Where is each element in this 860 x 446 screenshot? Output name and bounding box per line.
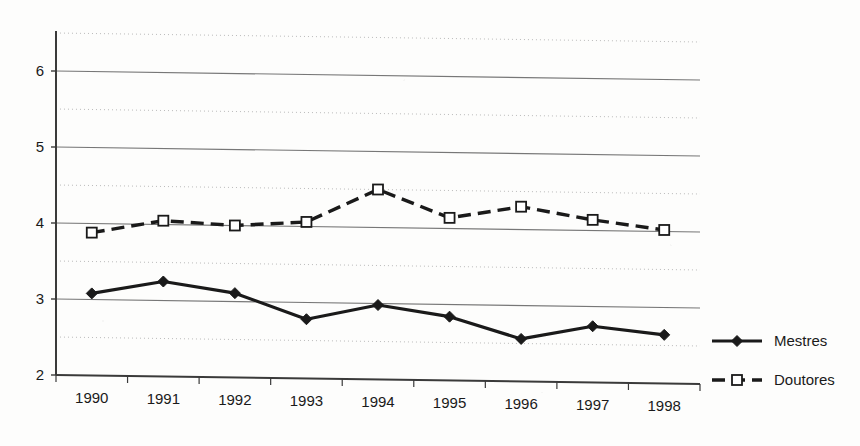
x-axis-tick-label: 1990 <box>75 389 108 406</box>
data-point-marker <box>230 221 240 231</box>
y-axis-tick-labels: 23456 <box>36 62 44 383</box>
y-axis-tick-label: 2 <box>36 366 44 383</box>
data-point-marker <box>445 213 455 223</box>
data-point-marker <box>588 215 598 225</box>
line-chart: 23456 1990199119921993199419951996199719… <box>0 0 860 446</box>
data-point-marker <box>373 300 384 311</box>
series-line-doutores <box>92 190 664 233</box>
x-axis-line <box>56 375 700 384</box>
legend-entry-doutores: Doutores <box>712 371 835 388</box>
chart-legend: MestresDoutores <box>712 332 835 388</box>
data-point-marker <box>732 375 742 385</box>
x-axis-tick-label: 1998 <box>648 397 681 414</box>
data-point-marker <box>301 217 311 227</box>
data-point-marker <box>301 314 312 325</box>
x-axis-tick-label: 1996 <box>504 395 537 412</box>
x-axis-tick-labels: 199019911992199319941995199619971998 <box>75 389 681 414</box>
minor-gridline <box>56 337 700 346</box>
y-axis-tick-label: 5 <box>36 138 44 155</box>
x-axis-tick-label: 1995 <box>433 394 466 411</box>
data-point-marker <box>444 311 455 322</box>
data-point-marker <box>732 336 743 347</box>
x-axis-tick-label: 1992 <box>218 391 251 408</box>
y-axis-tick-label: 4 <box>36 214 44 231</box>
major-gridline <box>56 223 700 232</box>
x-axis-tick-label: 1991 <box>147 390 180 407</box>
x-axis-tick-label: 1994 <box>361 393 394 410</box>
minor-gridline <box>56 33 700 42</box>
y-axis-tick-label: 6 <box>36 62 44 79</box>
data-point-marker <box>516 202 526 212</box>
data-point-marker <box>229 288 240 299</box>
legend-entry-mestres: Mestres <box>712 332 827 349</box>
data-point-marker <box>86 288 97 299</box>
major-gridline <box>56 147 700 156</box>
data-point-marker <box>158 276 169 287</box>
chart-container: 23456 1990199119921993199419951996199719… <box>0 0 860 446</box>
major-gridline <box>56 71 700 80</box>
data-series-layer <box>86 185 669 345</box>
x-axis-tick-label: 1997 <box>576 396 609 413</box>
series-markers-mestres <box>86 276 669 344</box>
data-point-marker <box>373 185 383 195</box>
data-point-marker <box>158 216 168 226</box>
x-axis-tick-label: 1993 <box>290 392 323 409</box>
legend-label: Doutores <box>774 371 835 388</box>
y-axis-tick-label: 3 <box>36 290 44 307</box>
minor-gridline <box>56 109 700 118</box>
data-point-marker <box>659 329 670 340</box>
legend-label: Mestres <box>774 332 827 349</box>
series-markers-doutores <box>87 185 669 238</box>
chart-axes <box>51 31 700 391</box>
data-point-marker <box>659 225 669 235</box>
data-point-marker <box>516 333 527 344</box>
minor-gridline <box>56 261 700 270</box>
data-point-marker <box>587 321 598 332</box>
data-point-marker <box>87 228 97 238</box>
